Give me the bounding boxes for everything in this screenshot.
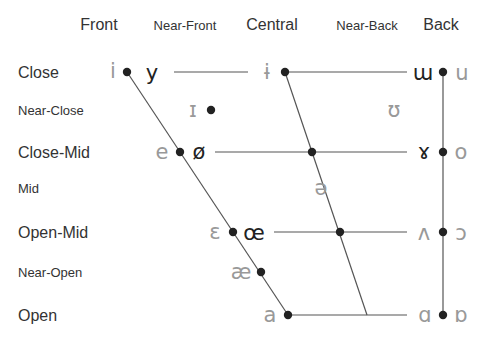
vowel-symbol: ə bbox=[315, 176, 328, 200]
vowel-dot bbox=[336, 228, 344, 236]
vowel-symbol: ɛ bbox=[209, 220, 220, 244]
row-label: Close bbox=[18, 64, 59, 81]
vowel-dot bbox=[207, 106, 215, 114]
ipa-vowel-chart: FrontNear-FrontCentralNear-BackBack Clos… bbox=[0, 0, 487, 339]
row-label: Near-Close bbox=[18, 103, 84, 118]
vowel-symbol: ɒ bbox=[454, 303, 467, 327]
column-headers: FrontNear-FrontCentralNear-BackBack bbox=[80, 16, 459, 33]
vowel-dot bbox=[439, 311, 447, 319]
row-label: Near-Open bbox=[18, 265, 82, 280]
vowel-symbol: e bbox=[156, 140, 169, 164]
vowel-symbol: ɨ bbox=[264, 60, 270, 84]
vowel-dot bbox=[439, 148, 447, 156]
vowel-dot bbox=[308, 148, 316, 156]
vowel-symbol: ʌ bbox=[418, 221, 430, 245]
vowel-symbol: æ bbox=[231, 260, 252, 284]
vowel-dot bbox=[284, 311, 292, 319]
vowel-symbol: ɯ bbox=[413, 61, 433, 85]
vowel-symbol: a bbox=[264, 303, 277, 327]
row-labels: CloseNear-CloseClose-MidMidOpen-MidNear-… bbox=[18, 64, 90, 324]
vowel-symbol: i bbox=[110, 59, 116, 83]
column-header: Front bbox=[80, 16, 118, 33]
column-header: Back bbox=[423, 16, 460, 33]
vowel-symbol: ɑ bbox=[418, 303, 431, 327]
vowel-dot bbox=[257, 268, 265, 276]
vowel-symbol: ɤ bbox=[418, 140, 431, 164]
vowel-symbol: o bbox=[455, 140, 468, 164]
vowel-dot bbox=[281, 68, 289, 76]
vowel-dot bbox=[176, 148, 184, 156]
vowel-symbol: ɪ bbox=[189, 98, 197, 122]
vowel-symbol: u bbox=[455, 61, 468, 85]
vowel-symbol: œ bbox=[243, 221, 264, 245]
vowel-symbol: ʊ bbox=[388, 98, 401, 122]
column-header: Central bbox=[246, 16, 298, 33]
row-label: Open bbox=[18, 307, 57, 324]
vowel-dot bbox=[439, 68, 447, 76]
vowel-symbol: y bbox=[146, 61, 158, 85]
row-label: Mid bbox=[18, 181, 39, 196]
column-header: Near-Front bbox=[154, 18, 217, 33]
vowel-dot bbox=[439, 228, 447, 236]
row-label: Open-Mid bbox=[18, 224, 88, 241]
row-label: Close-Mid bbox=[18, 144, 90, 161]
vowel-symbol: ɔ bbox=[455, 221, 467, 245]
vowel-symbol: ø bbox=[193, 140, 206, 164]
vowel-dot bbox=[123, 68, 131, 76]
column-header: Near-Back bbox=[336, 18, 398, 33]
vowel-symbols: iyɨɯuɪʊeøɤoəɛœʌɔæaɑɒ bbox=[110, 59, 469, 327]
vowel-dot bbox=[229, 228, 237, 236]
